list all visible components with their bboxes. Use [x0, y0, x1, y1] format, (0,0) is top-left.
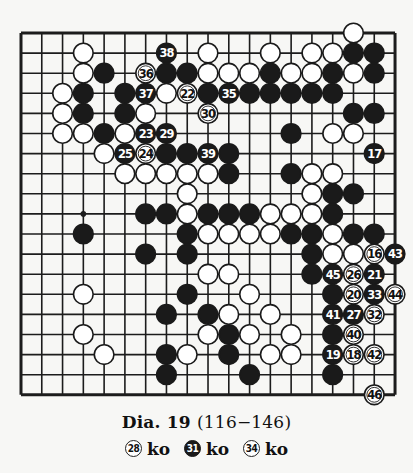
white-stone-icon	[344, 23, 364, 43]
black-stone-45: 45	[323, 264, 343, 284]
white-stone-icon	[281, 204, 301, 224]
white-stone	[74, 285, 94, 305]
white-stone	[344, 124, 364, 144]
white-stone-icon	[240, 224, 260, 244]
white-stone	[240, 325, 260, 345]
black-stone-icon	[302, 264, 322, 284]
black-stone-icon	[157, 365, 177, 385]
white-stone-icon	[219, 305, 239, 325]
white-stone-icon	[115, 164, 135, 184]
white-stone	[323, 244, 343, 264]
black-stone	[219, 204, 239, 224]
black-stone-icon	[281, 224, 301, 244]
white-stone	[74, 325, 94, 345]
black-stone-icon	[115, 84, 135, 104]
black-stone-icon	[240, 84, 260, 104]
black-stone	[136, 244, 156, 264]
white-stone-icon	[198, 164, 218, 184]
black-stone-icon	[261, 84, 281, 104]
move-number: 44	[388, 288, 403, 302]
white-stone-icon	[74, 124, 94, 144]
ko-note: 34 ko	[243, 439, 288, 459]
black-stone-21: 21	[364, 264, 384, 284]
white-stone-icon	[74, 325, 94, 345]
black-stone	[344, 104, 364, 124]
move-number: 21	[367, 268, 382, 282]
white-stone-icon	[261, 204, 281, 224]
black-stone-icon	[136, 244, 156, 264]
white-stone-40: 40	[344, 325, 364, 345]
move-range: (116−146)	[197, 412, 291, 432]
ko-label: ko	[265, 439, 288, 459]
white-stone-icon	[240, 285, 260, 305]
white-stone-icon	[302, 164, 322, 184]
white-stone-icon	[261, 305, 281, 325]
move-number: 16	[367, 247, 382, 261]
black-stone	[198, 84, 218, 104]
white-stone-icon	[53, 124, 73, 144]
white-stone	[198, 264, 218, 284]
black-stone	[364, 224, 384, 244]
black-stone	[177, 144, 197, 164]
black-stone-icon	[323, 63, 343, 83]
move-number: 39	[201, 147, 216, 161]
black-stone-icon	[323, 84, 343, 104]
white-stone-icon	[281, 63, 301, 83]
black-stone-25: 25	[115, 144, 135, 164]
black-stone-icon	[302, 84, 322, 104]
black-stone	[115, 84, 135, 104]
black-stone-icon	[177, 285, 197, 305]
star-point-icon	[81, 211, 87, 217]
black-stone	[323, 63, 343, 83]
black-stone	[344, 224, 364, 244]
black-stone-icon	[94, 124, 114, 144]
black-stone-icon	[364, 63, 384, 83]
black-stone-icon	[198, 305, 218, 325]
white-stone-20: 20	[344, 285, 364, 305]
white-stone	[74, 124, 94, 144]
ko-move-stone-icon: 34	[243, 440, 260, 457]
black-stone	[364, 104, 384, 124]
white-stone	[323, 224, 343, 244]
black-stone-icon	[157, 305, 177, 325]
black-stone-icon	[281, 164, 301, 184]
black-stone	[281, 224, 301, 244]
diagram-caption: Dia. 19 (116−146)	[0, 412, 413, 432]
move-number: 22	[180, 87, 195, 101]
white-stone	[323, 124, 343, 144]
black-stone	[364, 63, 384, 83]
move-number: 25	[118, 147, 133, 161]
black-stone-icon	[344, 43, 364, 63]
black-stone	[157, 204, 177, 224]
move-number: 32	[367, 308, 382, 322]
black-stone-39: 39	[198, 144, 218, 164]
black-stone	[94, 124, 114, 144]
white-stone	[240, 285, 260, 305]
white-stone-icon	[157, 84, 177, 104]
white-stone	[115, 164, 135, 184]
black-stone	[198, 204, 218, 224]
black-stone-37: 37	[136, 84, 156, 104]
move-number: 40	[346, 328, 361, 342]
white-stone	[240, 224, 260, 244]
black-stone	[240, 204, 260, 224]
white-stone	[157, 164, 177, 184]
move-number: 27	[346, 308, 361, 322]
black-stone-icon	[219, 144, 239, 164]
black-stone-icon	[364, 104, 384, 124]
white-stone	[74, 63, 94, 83]
move-number: 17	[367, 147, 382, 161]
black-stone	[281, 84, 301, 104]
black-stone	[115, 104, 135, 124]
move-number: 36	[139, 67, 154, 81]
move-number: 19	[326, 348, 341, 362]
white-stone	[344, 63, 364, 83]
black-stone-43: 43	[385, 244, 405, 264]
black-stone-19: 19	[323, 345, 343, 365]
white-stone	[198, 325, 218, 345]
white-stone-icon	[74, 63, 94, 83]
white-stone	[53, 124, 73, 144]
black-stone-icon	[281, 124, 301, 144]
white-stone-icon	[344, 63, 364, 83]
white-stone	[219, 305, 239, 325]
